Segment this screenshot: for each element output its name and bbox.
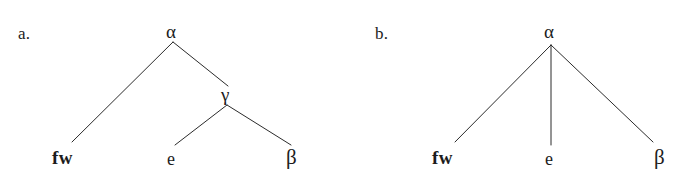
tree-node-alpha-b: α [544, 22, 554, 41]
tree-branch-gamma-a-to-beta-a [227, 105, 291, 145]
tree-branch-alpha-b-to-beta-b [551, 45, 653, 142]
tree-node-alpha-a: α [166, 22, 176, 41]
tree-branch-alpha-a-to-gamma-a [173, 42, 228, 86]
branch-group [72, 42, 653, 145]
tree-node-beta-a: β [286, 147, 297, 168]
tree-branch-alpha-a-to-fw-a [72, 42, 173, 142]
panel-label-b: b. [375, 25, 388, 42]
tree-branch-alpha-b-to-fw-b [455, 45, 551, 142]
tree-branch-gamma-a-to-e-a [175, 105, 227, 145]
figure-canvas: a.αγfweβb.αfweβ [0, 0, 687, 189]
tree-node-e-a: e [167, 150, 175, 168]
tree-node-fw-a: fw [52, 148, 73, 167]
tree-node-beta-b: β [654, 147, 665, 168]
panel-label-a: a. [18, 25, 30, 42]
tree-node-e-b: e [545, 150, 553, 168]
tree-node-fw-b: fw [432, 148, 453, 167]
tree-branches-layer [0, 0, 687, 189]
tree-node-gamma-a: γ [221, 85, 229, 104]
